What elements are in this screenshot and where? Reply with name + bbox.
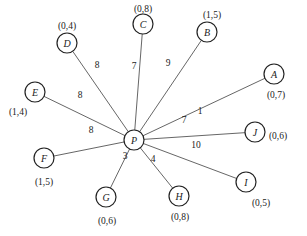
node-label-c: C [140,19,147,30]
node-coordinate-a: (0,7) [267,90,285,101]
node-coordinate-e: (1,4) [9,107,27,118]
node-coordinate-f: (1,5) [35,177,53,188]
graph-canvas: 19788834107 ABCDEFGHIJ (0,7)(1,5)(0,8)(0… [0,0,307,236]
edge-weight-f: 8 [89,125,94,135]
node-label-d: D [62,38,71,49]
edge-weight-j: 7 [182,115,187,125]
center-node: P [124,130,144,150]
edges-layer [44,34,265,188]
center-node-label: P [130,135,137,146]
node-b: B [197,22,217,42]
node-label-b: B [204,27,210,38]
node-a: A [264,64,284,84]
edge-weight-a: 1 [198,106,203,116]
node-label-e: E [31,87,38,98]
edge-p-b [140,40,202,131]
edge-p-f [54,142,124,156]
node-coordinate-b: (1,5) [203,10,221,21]
edge-weight-d: 8 [95,60,100,70]
star-graph-diagram: 19788834107 ABCDEFGHIJ (0,7)(1,5)(0,8)(0… [0,0,307,236]
edge-weight-g: 3 [123,151,128,161]
node-label-g: G [102,192,109,203]
node-label-i: I [243,177,248,188]
node-d: D [57,33,77,53]
node-coordinate-j: (0,6) [269,131,287,142]
node-j: J [245,122,265,142]
edge-weight-c: 7 [132,61,137,71]
node-f: F [34,148,54,168]
node-coordinate-c: (0,8) [134,4,152,15]
coordinates-layer: (0,7)(1,5)(0,8)(0,4)(1,4)(1,5)(0,6)(0,8)… [9,4,287,227]
node-c: C [133,14,153,34]
node-coordinate-h: (0,8) [171,212,189,223]
node-h: H [169,186,189,206]
edge-p-h [140,148,172,188]
node-g: G [96,187,116,207]
edge-weight-h: 4 [151,154,156,164]
edge-weight-i: 10 [191,140,201,150]
node-label-f: F [40,153,48,164]
edge-p-c [135,34,142,130]
edge-weight-b: 9 [166,58,171,68]
node-i: I [236,172,256,192]
node-e: E [25,82,45,102]
edge-weight-e: 8 [78,90,83,100]
nodes-layer: ABCDEFGHIJ [25,14,284,207]
node-label-a: A [270,69,278,80]
node-coordinate-d: (0,4) [58,21,76,32]
node-coordinate-g: (0,6) [98,216,116,227]
node-label-h: H [174,191,183,202]
node-coordinate-i: (0,5) [252,198,270,209]
edge-p-j [144,133,245,140]
node-label-j: J [253,127,258,138]
edge-p-i [143,144,236,179]
edge-p-e [44,96,125,135]
